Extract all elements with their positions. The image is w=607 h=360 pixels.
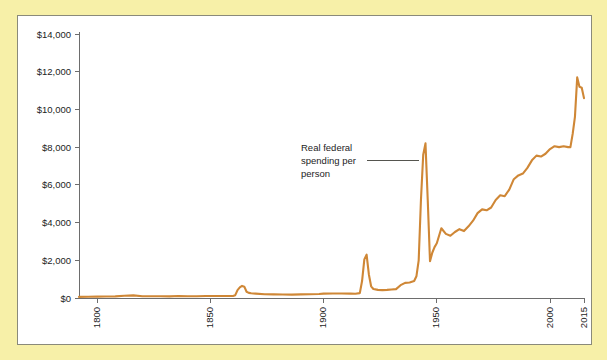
y-tick-label: $0 xyxy=(60,293,71,304)
y-tick-label: $12,000 xyxy=(37,66,71,77)
y-tick-label: $10,000 xyxy=(37,104,71,115)
x-tick-label: 2000 xyxy=(544,307,555,328)
federal-spending-line-chart: $0$2,000$4,000$6,000$8,000$10,000$12,000… xyxy=(18,16,592,345)
annotation-line-3: person xyxy=(301,168,330,179)
x-tick-label: 1850 xyxy=(204,307,215,328)
y-tick-label: $4,000 xyxy=(42,217,71,228)
annotation-line-2: spending per xyxy=(301,155,356,166)
chart-annotation: Real federal spending per person xyxy=(301,142,419,179)
y-tick-label: $14,000 xyxy=(37,29,71,40)
x-tick-label: 2015 xyxy=(578,307,589,328)
x-tick-label: 1950 xyxy=(430,307,441,328)
series-group xyxy=(79,77,584,297)
x-tick-label: 1900 xyxy=(317,307,328,328)
x-axis: 180018501900195020002015 xyxy=(79,298,589,328)
y-tick-label: $2,000 xyxy=(42,255,71,266)
y-tick-label: $6,000 xyxy=(42,179,71,190)
y-axis: $0$2,000$4,000$6,000$8,000$10,000$12,000… xyxy=(37,29,79,304)
series-line-real-federal-spending xyxy=(79,77,584,297)
y-tick-label: $8,000 xyxy=(42,142,71,153)
chart-figure-frame: $0$2,000$4,000$6,000$8,000$10,000$12,000… xyxy=(17,15,592,345)
annotation-line-1: Real federal xyxy=(301,142,352,153)
x-tick-label: 1800 xyxy=(91,307,102,328)
